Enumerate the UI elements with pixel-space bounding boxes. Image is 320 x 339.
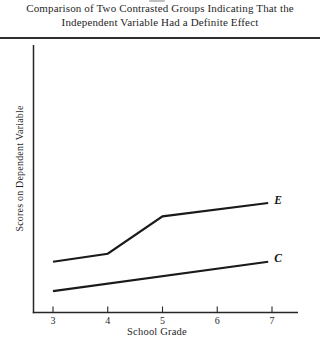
experimental-group-line: [53, 203, 268, 262]
experimental-group-label: E: [274, 194, 282, 207]
x-tick-label-6: 6: [210, 315, 224, 326]
x-tick-label-4: 4: [101, 315, 115, 326]
y-axis-label: Scores on Dependent Variable: [14, 89, 25, 249]
x-tick-label-5: 5: [156, 315, 170, 326]
control-group-label: C: [274, 252, 282, 265]
x-tick-label-3: 3: [46, 315, 60, 326]
x-tick-label-7: 7: [265, 315, 279, 326]
line-chart-canvas: [0, 0, 320, 339]
figure-page: Comparison of Two Contrasted Groups Indi…: [0, 0, 320, 339]
control-group-line: [53, 262, 268, 291]
x-axis-label: School Grade: [0, 326, 314, 337]
